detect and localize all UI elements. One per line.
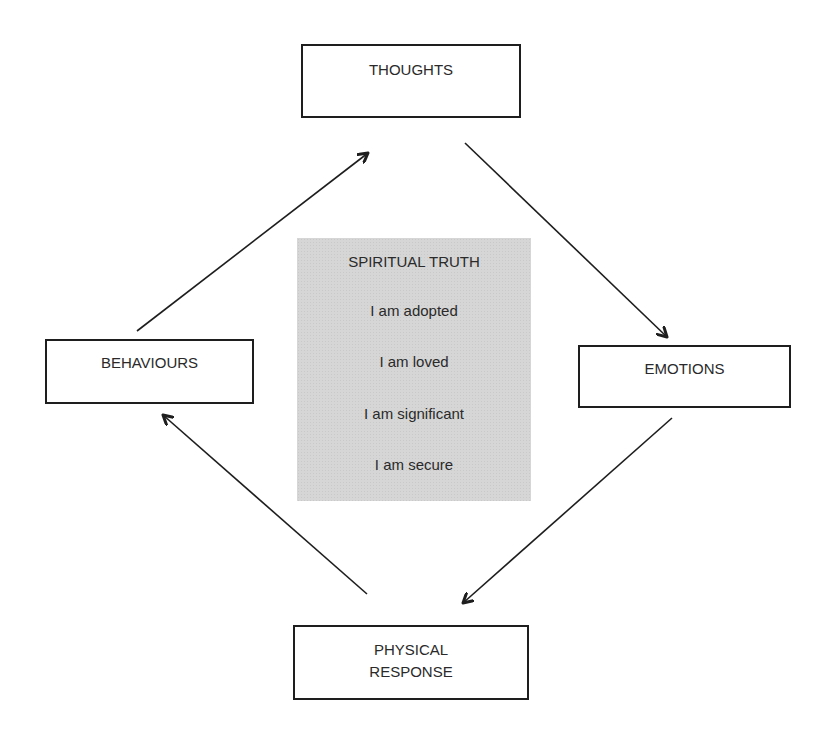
node-behaviours: BEHAVIOURS [45,339,254,404]
node-physical-label-line2: RESPONSE [295,661,527,683]
node-thoughts: THOUGHTS [301,44,521,118]
truth-statement: I am significant [297,405,531,422]
node-emotions-label: EMOTIONS [580,359,789,379]
node-emotions: EMOTIONS [578,345,791,408]
node-behaviours-label: BEHAVIOURS [47,353,252,373]
spiritual-truth-panel: SPIRITUAL TRUTH I am adopted I am loved … [297,238,531,501]
truth-statement: I am secure [297,456,531,473]
node-physical-label-line1: PHYSICAL [295,639,527,661]
node-physical-response: PHYSICAL RESPONSE [293,625,529,700]
truth-statement: I am adopted [297,302,531,319]
truth-statement: I am loved [297,353,531,370]
node-thoughts-label: THOUGHTS [303,60,519,80]
spiritual-truth-title: SPIRITUAL TRUTH [297,253,531,270]
